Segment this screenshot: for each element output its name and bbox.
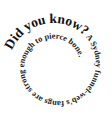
- spiral-textpath: Did you know? A Sydney funnel-web's fang…: [1, 11, 103, 108]
- spiral-text: Did you know? A Sydney funnel-web's fang…: [1, 11, 103, 108]
- spiral-text-graphic: Did you know? A Sydney funnel-web's fang…: [0, 0, 112, 140]
- fact-text: A Sydney funnel-web's fangs are strong e…: [17, 31, 103, 108]
